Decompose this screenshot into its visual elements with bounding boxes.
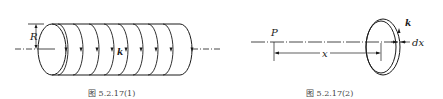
ring-current-label: k [405, 18, 411, 28]
figure-1-caption: 图 5.2.17(1) [88, 89, 135, 98]
figure-2-caption: 图 5.2.17(2) [306, 89, 353, 98]
figure-cylinder: R k 图 5.2.17(1) [15, 24, 220, 98]
x-arrow-right [376, 52, 381, 55]
cylinder-left-end [38, 24, 66, 75]
distance-x-label: x [322, 48, 328, 59]
thickness-dx-label: dx [412, 37, 424, 48]
radius-arrow-down [35, 45, 38, 49]
current-arrows [65, 48, 194, 53]
point-p-label: P [270, 27, 278, 38]
x-arrow-left [274, 52, 279, 55]
dx-arrow-right [400, 41, 405, 44]
radius-arrow-up [35, 24, 38, 28]
radius-label: R [29, 31, 38, 42]
ring-current-arrow [398, 28, 401, 33]
cylinder-right-end [180, 24, 192, 75]
figure-ring: P x k dx 图 5.2.17(2) [251, 18, 424, 98]
surface-current-label: k [117, 47, 123, 57]
diagram-canvas: R k 图 5.2.17(1) [0, 0, 443, 99]
